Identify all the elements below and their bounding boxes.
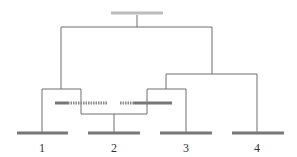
leaf1-label: 1 bbox=[39, 141, 45, 155]
leaf4-label: 4 bbox=[254, 141, 260, 155]
leaf2-label: 2 bbox=[111, 141, 117, 155]
tree-diagram: 1 2 3 4 bbox=[0, 0, 297, 157]
leaf3-label: 3 bbox=[183, 141, 189, 155]
